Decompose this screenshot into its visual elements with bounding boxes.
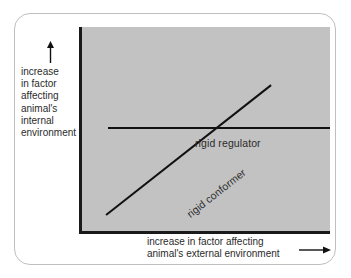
series-line-rigid-conformer: [105, 84, 271, 215]
up-arrow-icon: [46, 41, 55, 63]
right-arrow-icon: [299, 241, 331, 251]
y-axis-title-line-3: affecting: [21, 90, 81, 102]
series-label-rigid-regulator: rigid regulator: [195, 137, 261, 149]
y-axis-title: increase in factor affecting animal's in…: [21, 66, 81, 139]
plot-area: rigid regulator rigid conformer: [80, 27, 330, 232]
x-axis-title: increase in factor affecting animal's ex…: [147, 236, 280, 260]
series-line-rigid-regulator: [108, 127, 330, 129]
x-axis-title-line-2: animal's external environment: [147, 248, 280, 260]
y-axis-title-line-2: in factor: [21, 78, 81, 90]
x-axis-title-line-1: increase in factor affecting: [147, 236, 280, 248]
y-axis-title-line-4: animal's: [21, 103, 81, 115]
y-axis-title-line-6: environment: [21, 127, 81, 139]
y-axis-title-line-1: increase: [21, 66, 81, 78]
figure-container: increase in factor affecting animal's in…: [0, 0, 351, 278]
y-axis-title-line-5: internal: [21, 115, 81, 127]
x-axis-line: [79, 231, 330, 234]
y-axis-line: [79, 27, 82, 234]
series-label-rigid-conformer: rigid conformer: [184, 166, 248, 220]
